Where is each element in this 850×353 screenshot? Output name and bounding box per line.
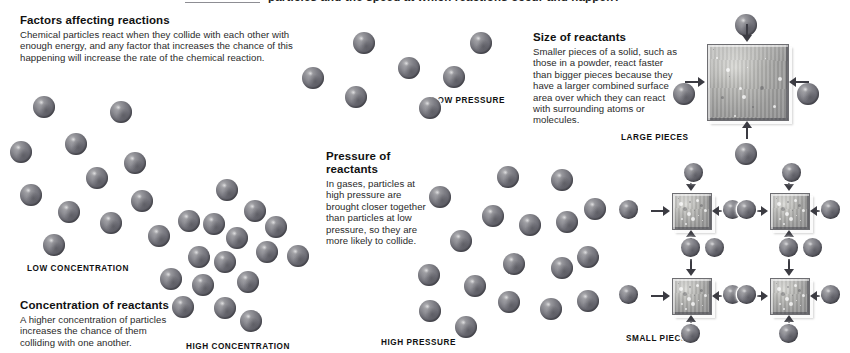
particle-low-concentration — [33, 96, 55, 118]
particle-large-piece — [735, 143, 757, 165]
particle-high-pressure — [577, 290, 599, 312]
particle-low-concentration — [10, 141, 32, 163]
label-low-pressure: LOW PRESSURE — [432, 96, 505, 105]
arrow-into-small-piece-left — [651, 291, 670, 301]
small-solid-piece — [672, 278, 712, 315]
particle-high-pressure — [429, 186, 451, 208]
particle-small-piece — [705, 238, 724, 257]
particle-high-concentration — [178, 210, 200, 232]
small-solid-piece — [770, 278, 810, 315]
particle-small-piece — [779, 238, 798, 257]
particle-low-pressure — [345, 86, 367, 108]
concentration-heading: Concentration of reactants — [20, 299, 180, 312]
label-low-concentration: LOW CONCENTRATION — [27, 264, 129, 273]
size-body: Smaller pieces of a solid, such as those… — [533, 46, 683, 126]
arrow-into-large-piece-right — [789, 77, 809, 87]
particle-high-concentration — [172, 296, 194, 318]
particle-high-concentration — [214, 297, 236, 319]
header-clipped-text: particles and the speed at which reactio… — [268, 0, 621, 3]
particle-small-piece — [684, 163, 703, 182]
particle-high-pressure — [584, 198, 606, 220]
particle-high-pressure — [551, 169, 573, 191]
particle-high-pressure — [503, 253, 525, 275]
particle-high-pressure — [577, 246, 599, 268]
infographic-canvas: particles and the speed at which reactio… — [0, 0, 850, 353]
particle-high-pressure — [556, 211, 578, 233]
arrow-into-large-piece-top — [742, 24, 752, 42]
particle-low-concentration — [43, 234, 65, 256]
particle-high-pressure — [497, 166, 519, 188]
factors-heading: Factors affecting reactions — [20, 14, 305, 27]
particle-small-piece — [619, 200, 638, 219]
particle-small-piece — [782, 163, 801, 182]
arrow-into-small-piece-top — [686, 259, 696, 276]
pressure-heading: Pressure of reactants — [326, 150, 432, 176]
particle-low-concentration — [86, 167, 108, 189]
particle-low-concentration — [100, 212, 122, 234]
particle-high-pressure — [482, 205, 504, 227]
particle-small-piece — [681, 238, 700, 257]
small-solid-piece — [770, 193, 810, 230]
particle-high-concentration — [265, 216, 287, 238]
particle-high-pressure — [450, 230, 472, 252]
particle-small-piece — [821, 285, 840, 304]
particle-low-pressure — [470, 32, 492, 54]
particle-low-concentration — [20, 184, 42, 206]
particle-small-piece — [737, 200, 756, 219]
particle-high-pressure — [418, 264, 440, 286]
particle-small-piece — [619, 285, 638, 304]
particle-low-concentration — [124, 152, 146, 174]
particle-high-concentration — [192, 274, 214, 296]
particle-low-concentration — [110, 101, 132, 123]
pressure-text-block: Pressure of reactants In gases, particle… — [326, 150, 432, 246]
particle-high-pressure — [540, 298, 562, 320]
particle-high-concentration — [160, 268, 182, 290]
top-clipped-header: particles and the speed at which reactio… — [0, 0, 850, 9]
particle-high-pressure — [464, 275, 486, 297]
particle-high-pressure — [551, 257, 573, 279]
particle-high-concentration — [256, 241, 278, 263]
particle-high-concentration — [188, 246, 210, 268]
particle-high-concentration — [214, 251, 236, 273]
large-solid-piece — [707, 44, 789, 121]
label-high-pressure: HIGH PRESSURE — [381, 338, 456, 347]
concentration-text-block: Concentration of reactants A higher conc… — [20, 299, 180, 348]
concentration-body: A higher concentration of particles incr… — [20, 314, 180, 348]
particle-low-concentration — [148, 225, 170, 247]
particle-low-pressure — [398, 57, 420, 79]
particle-low-concentration — [131, 190, 153, 212]
small-solid-piece — [672, 193, 712, 230]
arrow-into-small-piece-left — [651, 206, 670, 216]
particle-low-concentration — [65, 133, 87, 155]
label-large-pieces: LARGE PIECES — [621, 133, 689, 142]
label-high-concentration: HIGH CONCENTRATION — [186, 342, 290, 351]
particle-low-pressure — [419, 97, 441, 119]
particle-small-piece — [779, 324, 798, 343]
particle-high-pressure — [498, 291, 520, 313]
factors-body: Chemical particles react when they colli… — [20, 29, 305, 63]
arrow-into-large-piece-bottom — [742, 121, 752, 139]
size-text-block: Size of reactants Smaller pieces of a so… — [533, 31, 683, 126]
factors-text-block: Factors affecting reactions Chemical par… — [20, 14, 305, 63]
particle-high-pressure — [519, 214, 541, 236]
particle-high-concentration — [203, 213, 225, 235]
arrow-into-large-piece-left — [685, 77, 705, 87]
particle-high-concentration — [240, 310, 262, 332]
particle-low-pressure — [302, 67, 324, 89]
particle-low-pressure — [443, 66, 465, 88]
particle-small-piece — [737, 285, 756, 304]
particle-high-concentration — [216, 179, 238, 201]
particle-high-concentration — [226, 227, 248, 249]
particle-small-piece — [821, 200, 840, 219]
particle-low-concentration — [58, 201, 80, 223]
particle-high-pressure — [419, 300, 441, 322]
size-heading: Size of reactants — [533, 31, 683, 44]
particle-high-concentration — [244, 200, 266, 222]
particle-small-piece — [803, 238, 822, 257]
particle-low-pressure — [353, 32, 375, 54]
particle-high-concentration — [287, 245, 309, 267]
particle-small-piece — [681, 324, 700, 343]
particle-high-pressure — [455, 316, 477, 338]
particle-high-concentration — [237, 271, 259, 293]
pressure-body: In gases, particles at high pressure are… — [326, 178, 432, 246]
